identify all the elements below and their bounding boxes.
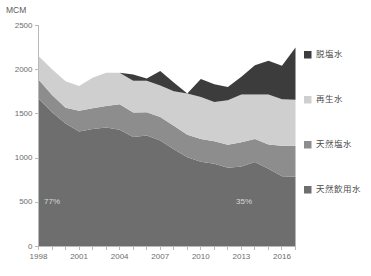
y-axis-unit-label: MCM bbox=[6, 5, 26, 15]
y-tick-label: 1000 bbox=[15, 153, 33, 162]
x-tick-label: 2010 bbox=[192, 252, 210, 261]
legend-label: 再生水 bbox=[316, 94, 343, 104]
legend-item[interactable]: 天然塩水 bbox=[304, 139, 352, 149]
y-tick-label: 0 bbox=[28, 242, 33, 251]
legend-item[interactable]: 再生水 bbox=[304, 94, 343, 104]
legend-swatch-icon bbox=[304, 141, 312, 149]
stacked-area-chart: MCM77%35%0500100015002000250019982001200… bbox=[0, 0, 371, 276]
annotation-share-left: 77% bbox=[44, 197, 60, 206]
legend-swatch-icon bbox=[304, 186, 312, 194]
legend: 脱塩水再生水天然塩水天然飲用水 bbox=[304, 49, 361, 194]
y-tick-label: 2000 bbox=[15, 65, 33, 74]
x-tick-label: 1998 bbox=[30, 252, 48, 261]
annotation-share-right: 35% bbox=[236, 197, 252, 206]
area-band-group bbox=[39, 48, 296, 247]
y-tick-label: 500 bbox=[19, 197, 33, 206]
legend-label: 天然飲用水 bbox=[316, 184, 361, 194]
x-tick-label: 2004 bbox=[111, 252, 129, 261]
legend-swatch-icon bbox=[304, 96, 312, 104]
legend-item[interactable]: 脱塩水 bbox=[304, 49, 343, 59]
x-axis-ticks: 1998200120042007201020132016 bbox=[30, 247, 296, 262]
legend-item[interactable]: 天然飲用水 bbox=[304, 184, 361, 194]
x-tick-label: 2016 bbox=[273, 252, 291, 261]
legend-swatch-icon bbox=[304, 51, 312, 59]
chart-canvas: MCM77%35%0500100015002000250019982001200… bbox=[0, 0, 371, 276]
legend-label: 脱塩水 bbox=[316, 49, 343, 59]
x-tick-label: 2007 bbox=[151, 252, 169, 261]
legend-label: 天然塩水 bbox=[316, 139, 352, 149]
x-tick-label: 2001 bbox=[70, 252, 88, 261]
y-tick-label: 1500 bbox=[15, 109, 33, 118]
y-tick-label: 2500 bbox=[15, 21, 33, 30]
x-tick-label: 2013 bbox=[232, 252, 250, 261]
y-axis-ticks: 05001000150020002500 bbox=[15, 21, 39, 251]
